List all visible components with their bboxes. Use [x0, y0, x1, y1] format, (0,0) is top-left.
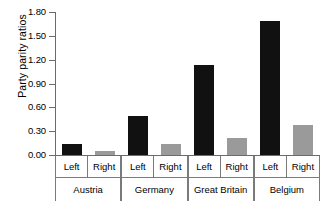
x-sublabel-left: Left	[55, 156, 88, 177]
y-tick-label: 0.30	[28, 125, 46, 136]
y-axis-title: Party parity ratios	[16, 0, 28, 126]
y-tick-label: 0.00	[28, 149, 46, 160]
y-tick-label: 0.90	[28, 78, 46, 89]
bar-belgium-left	[260, 21, 280, 155]
x-sublabel-left: Left	[188, 156, 221, 177]
x-sublabel-right: Right	[154, 156, 187, 177]
y-tick-label: 1.80	[28, 6, 46, 17]
bar-austria-left	[62, 144, 82, 155]
bar-great-britain-right	[227, 138, 247, 155]
x-sublabel-left: Left	[121, 156, 154, 177]
x-sublabel-right: Right	[88, 156, 121, 177]
x-group-label: Great Britain	[188, 177, 254, 201]
x-group-austria: LeftRightAustria	[55, 156, 121, 201]
y-tick-label: 1.50	[28, 30, 46, 41]
bar-germany-left	[128, 116, 148, 155]
x-group-label: Austria	[55, 177, 121, 201]
plot-area	[55, 12, 320, 155]
bar-chart: Party parity ratios 0.000.300.600.901.20…	[0, 0, 326, 202]
x-group-label: Belgium	[254, 177, 320, 201]
y-tick-label: 1.20	[28, 54, 46, 65]
x-sublabel-right: Right	[221, 156, 254, 177]
x-group-label: Germany	[121, 177, 187, 201]
x-group-belgium: LeftRightBelgium	[254, 156, 320, 201]
x-axis-labels: LeftRightAustriaLeftRightGermanyLeftRigh…	[55, 156, 320, 201]
x-group-great-britain: LeftRightGreat Britain	[188, 156, 254, 201]
bar-germany-right	[161, 144, 181, 155]
bar-great-britain-left	[194, 65, 214, 155]
x-sublabel-right: Right	[287, 156, 320, 177]
y-tick-label: 0.60	[28, 101, 46, 112]
x-group-germany: LeftRightGermany	[121, 156, 187, 201]
x-sublabel-left: Left	[254, 156, 287, 177]
bar-austria-right	[95, 151, 115, 155]
bar-belgium-right	[293, 125, 313, 155]
